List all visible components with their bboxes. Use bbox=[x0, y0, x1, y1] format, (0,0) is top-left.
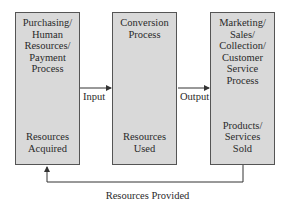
purchasing-process-box: Purchasing/ Human Resources/ Payment Pro… bbox=[15, 12, 80, 165]
resources-provided-label: Resources Provided bbox=[100, 190, 195, 201]
feedback-arrow bbox=[47, 165, 243, 182]
resources-acquired-label: Resources Acquired bbox=[16, 131, 79, 154]
purchasing-process-title: Purchasing/ Human Resources/ Payment Pro… bbox=[16, 17, 79, 75]
marketing-process-title: Marketing/ Sales/ Collection/ Customer S… bbox=[211, 17, 274, 86]
resources-used-label: Resources Used bbox=[113, 131, 176, 154]
conversion-process-box: Conversion Process Resources Used bbox=[112, 12, 177, 165]
conversion-process-title: Conversion Process bbox=[113, 17, 176, 40]
output-label: Output bbox=[180, 91, 209, 102]
marketing-process-box: Marketing/ Sales/ Collection/ Customer S… bbox=[210, 12, 275, 165]
products-services-sold-label: Products/ Services Sold bbox=[211, 120, 274, 155]
input-label: Input bbox=[83, 91, 105, 102]
